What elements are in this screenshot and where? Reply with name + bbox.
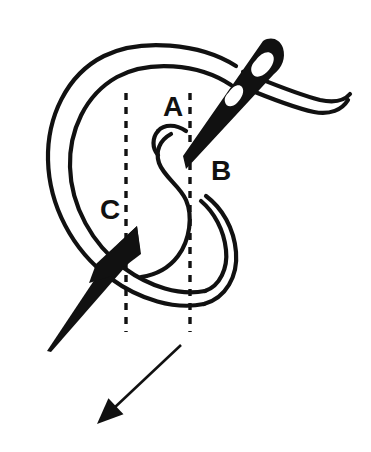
- stitch-diagram: A B C: [0, 0, 371, 452]
- label-a: A: [163, 91, 183, 122]
- label-b: B: [211, 155, 231, 186]
- stitch-illustration: A B C: [0, 0, 371, 452]
- label-c: C: [100, 194, 120, 225]
